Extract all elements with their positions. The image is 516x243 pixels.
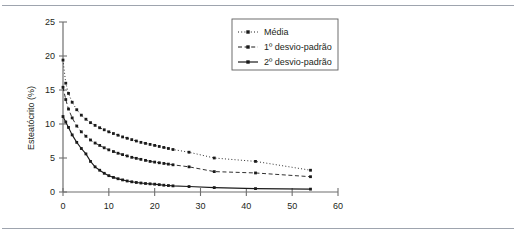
data-point-marker [89,160,92,163]
data-point-marker [89,139,92,142]
x-tick-label: 10 [104,201,114,211]
data-point-marker [64,82,67,85]
data-point-marker [149,143,152,146]
data-point-marker [94,124,97,127]
data-point-marker [167,184,170,187]
data-point-marker [188,151,191,154]
data-point-marker [75,125,78,128]
data-point-marker [130,156,133,159]
data-point-marker [80,114,83,117]
top-divider-rule [2,5,514,6]
legend-label-3: 2º desvio-padrão [264,57,332,67]
data-point-marker [80,147,83,150]
data-point-marker [213,186,216,189]
data-point-marker [309,188,312,191]
x-tick-label-group: 0102030405060 [60,201,343,211]
data-point-marker [172,163,175,166]
data-point-marker [112,150,115,153]
data-point-marker [121,136,124,139]
data-point-marker [67,126,70,129]
data-point-marker [75,108,78,111]
data-point-marker [213,170,216,173]
data-point-marker [188,185,191,188]
data-point-marker [126,137,129,140]
legend-marker-2 [246,45,249,48]
data-point-marker [98,169,101,172]
data-point-marker [144,159,147,162]
series-line-2 [63,87,311,176]
data-point-marker [126,155,129,158]
data-point-marker [167,147,170,150]
figure-root: 0510152025 0102030405060 Esteatócrito (%… [0,0,516,243]
data-point-marker [149,182,152,185]
data-point-marker [172,148,175,151]
data-point-marker [75,141,78,144]
data-point-marker [103,172,106,175]
data-point-marker [94,165,97,168]
data-point-marker [62,86,65,89]
data-point-marker [117,177,120,180]
y-tick-label: 5 [50,153,55,163]
bottom-divider-rule [2,228,514,229]
data-point-marker [140,182,143,185]
data-point-marker [103,146,106,149]
data-point-marker [98,126,101,129]
x-tick-label: 20 [150,201,160,211]
data-point-marker [167,163,170,166]
data-point-marker [254,160,257,163]
data-point-marker [162,184,165,187]
data-point-marker [149,160,152,163]
data-point-marker [140,158,143,161]
data-point-marker [135,140,138,143]
data-point-marker [103,128,106,131]
y-tick-label: 25 [45,17,55,27]
data-point-marker [67,92,70,95]
data-point-marker [135,181,138,184]
data-point-marker [162,146,165,149]
data-point-marker [117,152,120,155]
legend-marker-1 [246,30,249,33]
chart-canvas: 0510152025 0102030405060 Esteatócrito (%… [0,8,516,228]
x-tick-label: 0 [60,201,65,211]
y-tick-label: 10 [45,119,55,129]
data-point-marker [140,141,143,144]
data-point-marker [158,161,161,164]
data-point-marker [80,130,83,133]
legend-label-1: Média [264,27,289,37]
legend-marker-3 [246,60,249,63]
data-point-marker [89,121,92,124]
x-tick-label: 40 [241,201,251,211]
data-point-marker [117,134,120,137]
data-point-marker [94,142,97,145]
data-point-marker [71,133,74,136]
data-point-marker [112,132,115,135]
data-point-marker [107,174,110,177]
y-axis-title: Esteatócrito (%) [26,86,36,150]
data-point-marker [85,153,88,156]
data-point-marker [144,182,147,185]
data-point-marker [144,142,147,145]
legend-label-2: 1º desvio-padrão [264,42,332,52]
data-point-marker [62,59,65,62]
data-point-marker [162,162,165,165]
data-point-marker [188,165,191,168]
data-point-marker [158,145,161,148]
data-point-marker [71,116,74,119]
data-point-marker [71,101,74,104]
data-point-marker [172,184,175,187]
data-point-marker [107,148,110,151]
data-point-marker [254,172,257,175]
data-point-marker [213,157,216,160]
data-point-marker [121,179,124,182]
data-point-marker [254,187,257,190]
data-point-marker [64,98,67,101]
data-point-marker [107,130,110,133]
data-point-marker [112,176,115,179]
x-tick-label: 60 [333,201,343,211]
series-group [62,59,312,191]
data-point-marker [85,135,88,138]
data-point-marker [126,180,129,183]
data-point-marker [85,118,88,121]
data-point-marker [153,144,156,147]
y-tick-label: 0 [50,187,55,197]
